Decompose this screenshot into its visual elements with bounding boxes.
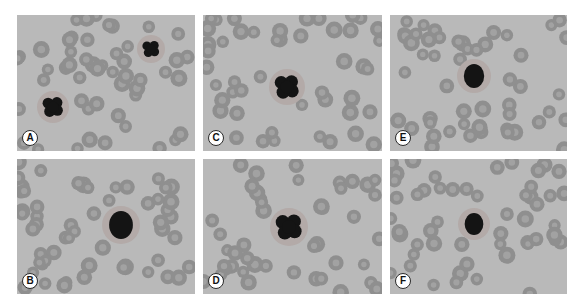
red-blood-cell xyxy=(118,68,134,84)
red-blood-cell xyxy=(347,210,361,224)
red-blood-cell xyxy=(271,34,284,47)
red-blood-cell xyxy=(328,255,343,270)
leukocyte-nucleus xyxy=(276,214,302,239)
red-blood-cell xyxy=(471,190,484,203)
panel-label: C xyxy=(208,130,224,146)
red-blood-cell xyxy=(116,260,130,274)
red-blood-cell xyxy=(152,193,165,206)
red-blood-cell xyxy=(56,277,72,293)
red-blood-cell xyxy=(423,223,439,239)
red-blood-cell xyxy=(504,159,519,170)
red-blood-cell xyxy=(347,126,364,143)
red-blood-cell xyxy=(490,160,505,175)
red-blood-cell xyxy=(153,214,169,230)
panel-d: D xyxy=(203,159,382,294)
red-blood-cell xyxy=(133,73,147,87)
leukocyte-nucleus xyxy=(465,213,484,235)
panel-f: F xyxy=(390,159,567,294)
red-blood-cell xyxy=(254,70,267,83)
red-blood-cell xyxy=(229,105,245,121)
red-blood-cell xyxy=(80,33,94,47)
red-blood-cell xyxy=(289,159,304,173)
red-blood-cell xyxy=(25,221,40,236)
red-blood-cell xyxy=(470,43,484,57)
red-blood-cell xyxy=(390,212,397,225)
red-blood-cell xyxy=(362,104,377,119)
red-blood-cell xyxy=(314,130,327,143)
red-blood-cell xyxy=(424,116,437,129)
red-blood-cell xyxy=(82,181,95,194)
red-blood-cell xyxy=(404,259,417,272)
red-blood-cell xyxy=(37,73,50,86)
red-blood-cell xyxy=(558,112,567,127)
panel-b: B xyxy=(17,159,195,294)
red-blood-cell xyxy=(293,28,308,43)
panel-a: A xyxy=(17,15,195,151)
red-blood-cell xyxy=(233,159,249,173)
panel-label: A xyxy=(22,130,38,146)
red-blood-cell xyxy=(217,36,229,48)
red-blood-cell xyxy=(503,72,517,86)
red-blood-cell xyxy=(343,22,359,38)
red-blood-cell xyxy=(265,126,278,139)
red-blood-cell xyxy=(34,164,47,177)
red-blood-cell xyxy=(523,287,538,294)
red-blood-cell xyxy=(247,26,260,39)
red-blood-cell xyxy=(326,22,343,39)
red-blood-cell xyxy=(454,237,469,252)
red-blood-cell xyxy=(443,125,456,138)
red-blood-cell xyxy=(65,46,78,59)
red-blood-cell xyxy=(159,66,172,79)
red-blood-cell xyxy=(213,227,227,241)
red-blood-cell xyxy=(543,105,556,118)
red-blood-cell xyxy=(143,21,156,34)
red-blood-cell xyxy=(227,245,243,261)
red-blood-cell xyxy=(240,274,256,290)
red-blood-cell xyxy=(399,66,412,79)
red-blood-cell xyxy=(142,266,154,278)
red-blood-cell xyxy=(531,163,547,179)
red-blood-cell xyxy=(400,15,413,28)
red-blood-cell xyxy=(95,240,111,256)
red-blood-cell xyxy=(390,113,406,129)
red-blood-cell xyxy=(429,170,442,183)
red-blood-cell xyxy=(411,238,424,251)
red-blood-cell xyxy=(501,126,515,140)
red-blood-cell xyxy=(171,27,185,41)
red-blood-cell xyxy=(33,41,50,58)
panel-c: C xyxy=(203,15,382,151)
red-blood-cell xyxy=(553,88,565,100)
red-blood-cell xyxy=(63,232,75,244)
red-blood-cell xyxy=(151,253,165,267)
red-blood-cell xyxy=(372,231,382,246)
red-blood-cell xyxy=(30,200,45,215)
red-blood-cell xyxy=(102,18,116,32)
leukocyte-nucleus xyxy=(464,64,484,88)
red-blood-cell xyxy=(307,239,321,253)
leukocyte-nucleus xyxy=(43,97,63,117)
red-blood-cell xyxy=(421,32,437,48)
red-blood-cell xyxy=(458,118,470,130)
red-blood-cell xyxy=(287,265,301,279)
red-blood-cell xyxy=(103,194,116,207)
leukocyte-nucleus xyxy=(109,211,133,239)
red-blood-cell xyxy=(345,174,360,189)
red-blood-cell xyxy=(524,180,538,194)
red-blood-cell xyxy=(39,277,52,290)
red-blood-cell xyxy=(366,136,382,151)
red-blood-cell xyxy=(405,159,422,169)
red-blood-cell xyxy=(61,57,77,73)
red-blood-cell xyxy=(217,259,231,273)
red-blood-cell xyxy=(259,259,273,273)
red-blood-cell xyxy=(107,66,119,78)
red-blood-cell xyxy=(82,132,98,148)
red-blood-cell xyxy=(169,52,185,68)
red-blood-cell xyxy=(439,79,454,94)
red-blood-cell xyxy=(292,174,304,186)
red-blood-cell xyxy=(532,115,546,129)
red-blood-cell xyxy=(456,103,472,119)
red-blood-cell xyxy=(315,85,329,99)
red-blood-cell xyxy=(210,79,222,91)
red-blood-cell xyxy=(500,207,514,221)
leukocyte-nucleus xyxy=(275,75,299,98)
